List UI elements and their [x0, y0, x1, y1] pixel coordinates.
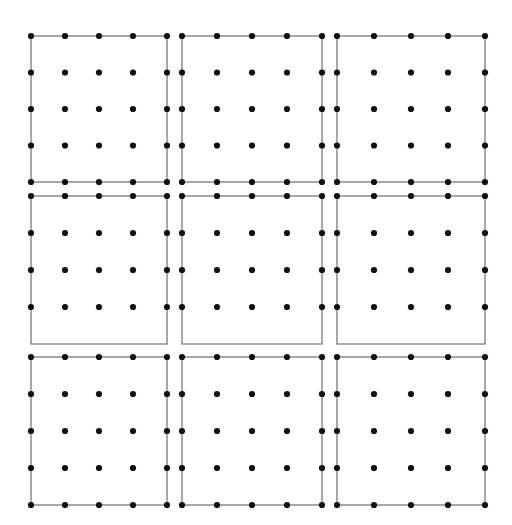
figure-background — [0, 0, 512, 525]
lattice-dot — [445, 106, 451, 112]
lattice-dot — [179, 391, 185, 397]
lattice-dot — [371, 230, 377, 236]
lattice-dot — [445, 267, 451, 273]
lattice-dot — [319, 465, 325, 471]
lattice-dot — [284, 267, 290, 273]
lattice-dot — [284, 193, 290, 199]
lattice-dot — [482, 502, 488, 508]
lattice-dot — [130, 267, 136, 273]
lattice-dot — [130, 193, 136, 199]
lattice-dot — [445, 304, 451, 310]
lattice-dot — [28, 106, 34, 112]
lattice-dot — [214, 267, 220, 273]
lattice-dot — [62, 502, 68, 508]
lattice-dot — [96, 193, 102, 199]
lattice-dot — [130, 142, 136, 148]
lattice-dot — [249, 179, 255, 185]
lattice-dot — [96, 230, 102, 236]
lattice-dot — [408, 33, 414, 39]
lattice-dot — [371, 428, 377, 434]
lattice-dot — [164, 69, 170, 75]
lattice-dot — [408, 230, 414, 236]
lattice-dot — [214, 465, 220, 471]
lattice-dot — [408, 69, 414, 75]
lattice-dot — [179, 502, 185, 508]
lattice-dot — [482, 179, 488, 185]
lattice-dot — [164, 142, 170, 148]
lattice-dot — [62, 230, 68, 236]
lattice-dot — [96, 142, 102, 148]
lattice-dot — [284, 502, 290, 508]
lattice-dot — [319, 230, 325, 236]
lattice-dot — [408, 267, 414, 273]
lattice-dot — [249, 354, 255, 360]
lattice-dot — [408, 354, 414, 360]
lattice-dot — [445, 69, 451, 75]
lattice-dot — [334, 230, 340, 236]
lattice-dot — [319, 33, 325, 39]
lattice-dot — [249, 428, 255, 434]
lattice-dot — [28, 33, 34, 39]
lattice-dot — [408, 304, 414, 310]
lattice-dot — [445, 230, 451, 236]
lattice-dot — [96, 304, 102, 310]
lattice-dot — [319, 354, 325, 360]
lattice-dot — [62, 267, 68, 273]
lattice-dot — [62, 465, 68, 471]
lattice-dot — [214, 142, 220, 148]
lattice-dot — [445, 391, 451, 397]
lattice-dot — [334, 465, 340, 471]
lattice-dot — [249, 142, 255, 148]
lattice-dot — [445, 142, 451, 148]
lattice-dot — [164, 502, 170, 508]
lattice-dot — [249, 106, 255, 112]
lattice-dot — [482, 267, 488, 273]
lattice-dot — [214, 428, 220, 434]
lattice-dot — [319, 502, 325, 508]
lattice-dot — [130, 106, 136, 112]
lattice-grid-figure — [0, 0, 512, 525]
lattice-dot — [28, 391, 34, 397]
lattice-dot — [130, 179, 136, 185]
lattice-dot — [445, 354, 451, 360]
lattice-dot — [319, 428, 325, 434]
lattice-dot — [319, 304, 325, 310]
lattice-dot — [334, 193, 340, 199]
lattice-dot — [164, 428, 170, 434]
lattice-dot — [130, 33, 136, 39]
lattice-dot — [179, 267, 185, 273]
lattice-dot — [130, 391, 136, 397]
lattice-dot — [482, 142, 488, 148]
lattice-dot — [130, 428, 136, 434]
lattice-dot — [179, 428, 185, 434]
lattice-dot — [445, 428, 451, 434]
lattice-dot — [28, 179, 34, 185]
lattice-dot — [371, 502, 377, 508]
lattice-dot — [179, 465, 185, 471]
lattice-dot — [319, 179, 325, 185]
lattice-dot — [319, 142, 325, 148]
lattice-dot — [130, 465, 136, 471]
lattice-dot — [96, 502, 102, 508]
lattice-dot — [62, 391, 68, 397]
lattice-dot — [249, 502, 255, 508]
lattice-dot — [28, 428, 34, 434]
lattice-dot — [334, 502, 340, 508]
lattice-dot — [371, 391, 377, 397]
lattice-dot — [284, 354, 290, 360]
lattice-dot — [164, 106, 170, 112]
lattice-dot — [371, 69, 377, 75]
lattice-dot — [249, 193, 255, 199]
lattice-dot — [319, 193, 325, 199]
lattice-dot — [445, 193, 451, 199]
lattice-dot — [482, 428, 488, 434]
lattice-dot — [334, 304, 340, 310]
lattice-dot — [249, 230, 255, 236]
lattice-dot — [408, 142, 414, 148]
lattice-dot — [62, 304, 68, 310]
lattice-dot — [408, 428, 414, 434]
lattice-dot — [164, 304, 170, 310]
lattice-dot — [408, 179, 414, 185]
lattice-dot — [130, 69, 136, 75]
lattice-dot — [214, 391, 220, 397]
